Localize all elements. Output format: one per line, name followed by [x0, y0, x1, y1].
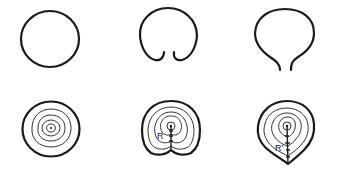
top-notched-outline	[140, 8, 197, 60]
label-R-prime: R'	[275, 143, 283, 153]
bottom-pointed-rings: R'	[258, 101, 314, 164]
bottom-notched-rings: R	[142, 101, 204, 155]
diagram-canvas: R R'	[0, 0, 342, 174]
top-stemmed-outline	[255, 9, 314, 70]
top-closed-circle	[21, 11, 79, 67]
label-R: R	[157, 131, 164, 141]
bottom-concentric-rings	[23, 102, 80, 157]
